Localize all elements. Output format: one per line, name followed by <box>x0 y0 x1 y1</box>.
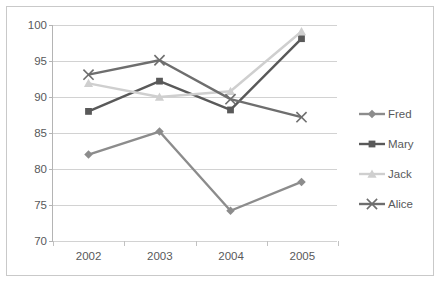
y-axis-tick-label: 85 <box>34 127 47 139</box>
data-point-marker-square <box>369 141 376 148</box>
data-point-marker-diamond <box>368 110 377 119</box>
legend-item-jack[interactable]: Jack <box>359 159 437 189</box>
legend-item-mary[interactable]: Mary <box>359 129 437 159</box>
series-line <box>89 39 302 112</box>
x-axis-tick-mark <box>53 241 54 246</box>
legend-item-label: Mary <box>388 138 414 150</box>
data-point-marker-diamond <box>297 178 305 187</box>
y-axis-tick-label: 80 <box>34 163 47 175</box>
series-jack <box>84 27 306 101</box>
data-point-marker-square <box>298 35 305 42</box>
data-point-marker-square <box>85 108 92 115</box>
legend-marker-x-icon <box>359 197 385 211</box>
series-mary <box>85 35 305 115</box>
y-axis-tick-label: 75 <box>34 199 47 211</box>
series-fred <box>84 127 305 215</box>
x-axis-tick-mark <box>267 241 268 246</box>
legend-item-fred[interactable]: Fred <box>359 99 437 129</box>
x-axis-tick-label: 2003 <box>147 250 173 262</box>
legend-item-label: Alice <box>388 198 413 210</box>
legend-marker-triangle-icon <box>359 167 385 181</box>
legend-marker-diamond-icon <box>359 107 385 121</box>
legend-item-alice[interactable]: Alice <box>359 189 437 219</box>
x-axis-tick-label: 2005 <box>290 250 316 262</box>
y-axis-tick-label: 95 <box>34 55 47 67</box>
data-point-marker-square <box>156 78 163 85</box>
x-axis-tick-label: 2004 <box>218 250 244 262</box>
series-line <box>89 132 302 211</box>
y-axis-tick-label: 90 <box>34 91 47 103</box>
x-axis-tick-mark <box>124 241 125 246</box>
legend-item-label: Jack <box>388 168 412 180</box>
series-lines <box>53 25 337 241</box>
x-axis-tick-mark <box>338 241 339 246</box>
chart-frame: 707580859095100 2002200320042005 FredMar… <box>6 6 434 276</box>
series-line <box>89 31 302 97</box>
data-point-marker-triangle <box>297 27 306 35</box>
y-axis-tick-label: 70 <box>34 235 47 247</box>
data-point-marker-diamond <box>84 150 92 159</box>
legend-marker-square-icon <box>359 137 385 151</box>
chart-legend: FredMaryJackAlice <box>359 99 437 219</box>
data-point-marker-square <box>227 107 234 114</box>
plot-area: 707580859095100 2002200320042005 <box>52 25 337 241</box>
y-axis-tick-label: 100 <box>28 19 47 31</box>
legend-item-label: Fred <box>388 108 412 120</box>
x-axis-tick-mark <box>196 241 197 246</box>
x-axis-tick-label: 2002 <box>76 250 102 262</box>
